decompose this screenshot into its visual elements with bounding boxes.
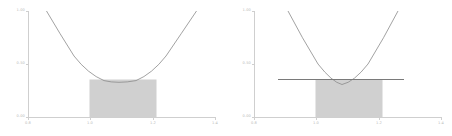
right-shaded-rectangle [316,80,383,118]
left-plot-graphics [0,0,226,136]
left-shaded-rectangle [90,80,157,118]
right-plot-graphics [226,0,452,136]
subplot-left: 1.00 0.50 0.00 0.8 1.0 1.2 1.4 [0,0,226,136]
subplot-right: 1.00 0.50 0.00 0.8 1.0 1.2 1.4 [226,0,452,136]
right-parabola-curve [288,11,398,85]
figure-canvas: 1.00 0.50 0.00 0.8 1.0 1.2 1.4 1.00 0.50… [0,0,452,136]
left-parabola-curve [47,11,197,82]
